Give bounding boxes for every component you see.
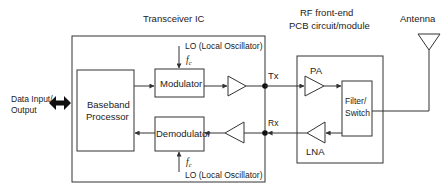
lo-top-label: LO (Local Oscillator)	[185, 41, 263, 51]
lo-bottom-label: LO (Local Oscillator)	[185, 170, 263, 180]
lna-label: LNA	[306, 146, 325, 157]
transceiver-block-diagram: Transceiver IC RF front-end PCB circuit/…	[0, 0, 445, 189]
pa-amplifier-icon	[305, 76, 324, 96]
rx-amplifier-icon	[225, 122, 244, 143]
antenna-label: Antenna	[400, 13, 436, 24]
rf-frontend-title-line2: PCB circuit/module	[289, 20, 370, 31]
tx-label: Tx	[268, 70, 279, 81]
antenna-feed-line	[372, 50, 429, 111]
data-io-label-line1: Data Input/	[11, 94, 53, 104]
transceiver-title: Transceiver IC	[143, 13, 205, 24]
rf-frontend-title-line1: RF front-end	[300, 7, 353, 18]
filter-label-line1: Filter/	[345, 96, 367, 106]
pa-label: PA	[310, 65, 323, 76]
demodulator-label: Demodulator	[156, 128, 210, 139]
baseband-label-line2: Processor	[86, 111, 129, 122]
tx-amplifier-icon	[228, 76, 246, 96]
fc-bottom-symbol: fc	[186, 157, 192, 168]
rx-label: Rx	[268, 118, 279, 128]
rx-node	[262, 130, 268, 136]
lna-amplifier-icon	[307, 122, 325, 143]
modulator-label: Modulator	[160, 78, 202, 89]
data-io-label-line2: Output	[11, 105, 37, 115]
filter-label-line2: Switch	[345, 108, 370, 118]
fc-top-symbol: fc	[186, 55, 192, 66]
antenna-icon	[418, 34, 440, 50]
baseband-label-line1: Baseband	[87, 99, 130, 110]
